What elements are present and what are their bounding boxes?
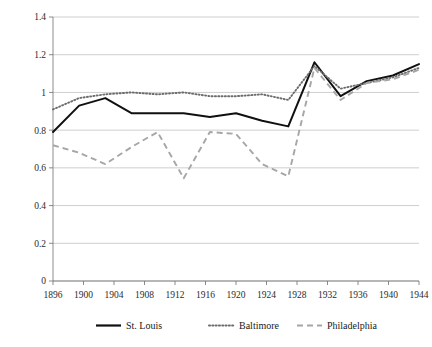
- x-axis-tick-label: 1940: [379, 290, 398, 300]
- y-axis-tick-label: 1.4: [34, 12, 46, 22]
- y-axis-tick-label: 0: [41, 276, 46, 286]
- gridlines: [49, 17, 419, 281]
- x-axis-tick-label: 1944: [410, 290, 429, 300]
- y-axis-tick-label: 0.8: [34, 126, 46, 136]
- y-axis-tick-labels: 00.20.40.60.811.21.4: [34, 12, 46, 286]
- x-axis-tick-label: 1932: [318, 290, 337, 300]
- x-axis-tick-label: 1904: [105, 290, 124, 300]
- x-axis-tick-label: 1912: [166, 290, 185, 300]
- y-axis-tick-label: 1.2: [34, 50, 46, 60]
- x-axis-tick-label: 1928: [288, 290, 307, 300]
- chart-canvas: 00.20.40.60.811.21.4 1896190019041908191…: [0, 0, 432, 347]
- legend-label-baltimore: Baltimore: [239, 320, 280, 331]
- x-axis-tick-label: 1896: [44, 290, 63, 300]
- x-axis-tick-label: 1920: [227, 290, 246, 300]
- legend-label-philadelphia: Philadelphia: [327, 320, 378, 331]
- x-axis-tick-label: 1916: [196, 290, 215, 300]
- y-axis-tick-label: 0.4: [34, 201, 46, 211]
- y-axis-tick-label: 0.2: [34, 239, 46, 249]
- chart-legend: St. LouisBaltimorePhiladelphia: [96, 320, 378, 331]
- y-axis-tick-label: 1: [41, 88, 46, 98]
- x-axis-tick-label: 1908: [135, 290, 154, 300]
- legend-label-st-louis: St. Louis: [126, 320, 162, 331]
- series-layer: [53, 62, 419, 178]
- y-axis-tick-label: 0.6: [34, 163, 46, 173]
- x-axis-tick-label: 1936: [349, 290, 368, 300]
- x-axis-tick-label: 1900: [74, 290, 93, 300]
- x-axis-tick-marks: [53, 281, 419, 285]
- series-line-st-louis: [53, 62, 419, 132]
- x-axis-tick-label: 1924: [257, 290, 276, 300]
- line-chart: 00.20.40.60.811.21.4 1896190019041908191…: [0, 0, 432, 347]
- series-line-baltimore: [53, 66, 419, 109]
- x-axis-tick-labels: 1896190019041908191219161920192419281932…: [44, 290, 429, 300]
